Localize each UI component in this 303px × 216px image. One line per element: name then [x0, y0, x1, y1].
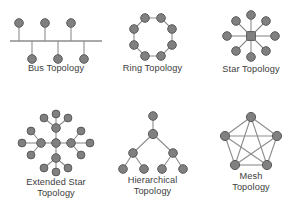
hierarchical-topology-figure	[118, 110, 188, 174]
tree-root-node	[148, 112, 157, 121]
bus-node	[15, 19, 24, 28]
tree-leaf-node	[139, 165, 148, 174]
ext-star-outer-node	[77, 151, 85, 159]
ring-node	[167, 41, 176, 50]
ring-node	[129, 41, 138, 50]
topology-cell-mesh: Mesh Topology	[199, 112, 303, 193]
extended-star-topology-figure	[18, 110, 94, 176]
hierarchical-topology-label: Hierarchical Topology	[128, 175, 178, 197]
ext-star-outer-node	[18, 139, 26, 147]
bus-node	[80, 55, 89, 64]
ext-star-outer-node	[77, 127, 85, 135]
mesh-topology-figure	[220, 112, 282, 170]
ext-star-inner-node	[37, 139, 46, 148]
ring-edge-loop	[134, 18, 172, 56]
star-topology-label: Star Topology	[222, 64, 279, 75]
ext-star-outer-node	[40, 114, 48, 122]
tree-leaf-node	[178, 165, 187, 174]
mesh-node	[272, 131, 281, 140]
mesh-edge	[235, 117, 251, 165]
ring-topology-figure	[125, 14, 181, 62]
ext-star-outer-node	[40, 164, 48, 172]
ext-star-outer-node	[64, 114, 72, 122]
ring-node	[156, 14, 165, 23]
star-node	[223, 32, 232, 41]
ext-star-inner-node	[67, 139, 76, 148]
bus-topology-figure	[6, 14, 106, 62]
star-node	[232, 17, 241, 26]
mesh-node	[230, 160, 239, 169]
ring-node	[156, 52, 165, 61]
star-node	[247, 53, 256, 62]
star-node	[232, 47, 241, 56]
topology-cell-ring: Ring Topology	[105, 14, 200, 74]
ext-star-outer-node	[86, 139, 94, 147]
ring-node	[140, 14, 149, 23]
bus-topology-label: Bus Topology	[28, 63, 84, 74]
star-hub-node	[247, 32, 256, 41]
ext-star-outer-node	[27, 151, 35, 159]
network-topology-diagram: Bus Topology Ring Topology	[0, 0, 303, 216]
ext-star-outer-node	[64, 164, 72, 172]
star-node	[271, 32, 280, 41]
bus-node	[54, 55, 63, 64]
ring-topology-label: Ring Topology	[123, 63, 182, 74]
mesh-node	[262, 160, 271, 169]
mesh-edge	[225, 136, 267, 165]
topology-cell-star: Star Topology	[199, 9, 303, 75]
tree-leaf-node	[157, 165, 166, 174]
ring-node	[129, 25, 138, 34]
bus-node	[41, 19, 50, 28]
ext-star-hub-node	[52, 139, 61, 148]
bus-node	[67, 19, 76, 28]
extended-star-topology-label: Extended Star Topology	[26, 177, 86, 199]
mesh-edge	[235, 136, 277, 165]
tree-branch-node	[128, 149, 137, 158]
star-topology-figure	[220, 9, 282, 63]
star-node	[247, 11, 256, 20]
ext-star-outer-node	[52, 168, 60, 176]
tree-branch-node	[168, 149, 177, 158]
ext-star-outer-node	[27, 127, 35, 135]
ring-node	[140, 52, 149, 61]
mesh-node	[246, 112, 255, 121]
star-node	[262, 17, 271, 26]
ring-node	[167, 25, 176, 34]
bus-node	[28, 55, 37, 64]
ext-star-inner-node	[52, 124, 61, 133]
mesh-topology-label: Mesh Topology	[232, 171, 270, 193]
tree-leaf-node	[118, 165, 127, 174]
tree-trunk-node	[148, 129, 157, 138]
ext-star-inner-node	[52, 154, 61, 163]
mesh-node	[220, 131, 229, 140]
topology-cell-bus: Bus Topology	[0, 14, 112, 74]
topology-cell-extended-star: Extended Star Topology	[0, 110, 112, 199]
star-node	[262, 47, 271, 56]
ext-star-outer-node	[52, 110, 60, 118]
topology-cell-hierarchical: Hierarchical Topology	[105, 110, 200, 197]
mesh-edge	[251, 117, 267, 165]
